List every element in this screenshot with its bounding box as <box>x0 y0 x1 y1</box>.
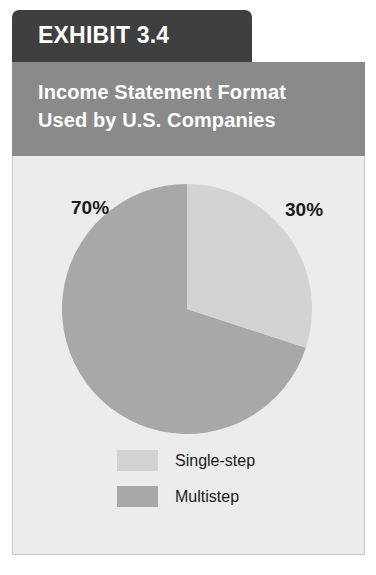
exhibit-figure: EXHIBIT 3.4 Income Statement Format Used… <box>0 0 376 575</box>
pie-chart <box>59 181 315 437</box>
legend-item-single-step: Single-step <box>117 448 357 473</box>
legend-item-multistep: Multistep <box>117 484 357 509</box>
exhibit-title-line-1: Income Statement Format <box>38 78 356 106</box>
legend-label-multistep: Multistep <box>175 488 239 506</box>
exhibit-number-label: EXHIBIT 3.4 <box>38 22 169 49</box>
exhibit-number-tab: EXHIBIT 3.4 <box>12 10 252 63</box>
chart-panel: 70% 30% Single-step Multistep <box>12 156 365 555</box>
exhibit-title-line-2: Used by U.S. Companies <box>38 106 356 134</box>
exhibit-title: Income Statement Format Used by U.S. Com… <box>38 78 356 134</box>
pie-label-single-step-percent: 30% <box>285 199 323 221</box>
legend-label-single-step: Single-step <box>175 452 255 470</box>
exhibit-title-band: Income Statement Format Used by U.S. Com… <box>12 62 365 156</box>
pie-label-multistep-percent: 70% <box>71 197 109 219</box>
chart-legend: Single-step Multistep <box>117 448 357 520</box>
legend-swatch-single-step <box>117 450 158 471</box>
legend-swatch-multistep <box>117 486 158 507</box>
